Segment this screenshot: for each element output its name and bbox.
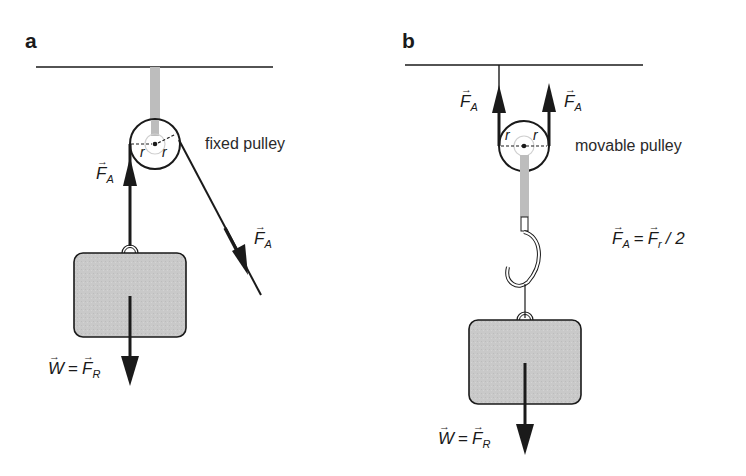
force-fa-right-label: →FA: [564, 93, 582, 113]
arrow-down-icon: [121, 356, 139, 386]
arrow-up-right-icon: [542, 83, 556, 112]
weight-equation-a: →W=→FR: [48, 360, 100, 380]
force-relation-equation: →FA=→Fr/ 2: [612, 230, 685, 250]
movable-pulley-axle: [522, 144, 527, 149]
force-fa-up-label: →FA: [96, 165, 114, 185]
arrow-up-left-icon: [492, 85, 506, 113]
radius-label-a-right: r: [162, 145, 167, 159]
panel-a-label: a: [25, 30, 37, 51]
panel-a: [36, 67, 273, 386]
radius-label-b-right: r: [533, 128, 538, 142]
weight-equation-b: →W=→FR: [438, 430, 490, 450]
hanging-rod-b: [520, 155, 529, 217]
arrow-up-icon: [123, 157, 137, 186]
force-fa-left-label: →FA: [460, 93, 478, 113]
rope-right-a: [179, 140, 261, 295]
radius-label-a-left: r: [140, 145, 145, 159]
panel-b: [405, 65, 643, 455]
movable-pulley-caption: movable pulley: [575, 138, 682, 154]
panel-b-label: b: [402, 30, 415, 51]
radius-label-b-left: r: [505, 128, 510, 142]
arrow-down-b-icon: [516, 424, 534, 455]
fixed-pulley-caption: fixed pulley: [205, 136, 285, 152]
force-fa-diagonal-label: →FA: [254, 230, 272, 250]
fixed-pulley-axle: [153, 142, 158, 147]
